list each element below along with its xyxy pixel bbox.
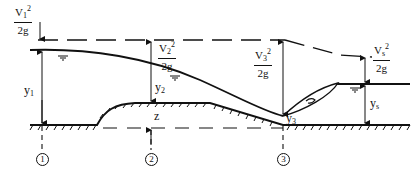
velocity-head-2: V22 2g [158,41,176,72]
hydraulic-diagram: V12 2g V22 2g V32 2g Vs2 2g y1 y2 y3 ys … [0,0,417,181]
depth-y1: y1 [24,84,34,98]
depth-ys: ys [370,97,379,111]
depth-y3: y3 [286,112,296,126]
channel-bed [30,103,410,125]
velocity-head-s: Vs2 2g [373,43,390,74]
depth-y2: y2 [155,81,165,95]
velocity-head-3: V32 2g [254,48,272,79]
section-2-marker: 2 [145,153,158,166]
section-3-marker: 3 [277,153,290,166]
energy-line [38,40,372,57]
hump-height-z: z [154,110,159,122]
section-1-marker: 1 [36,153,49,166]
velocity-head-1: V12 2g [14,5,32,36]
diagram-lines [0,0,417,181]
